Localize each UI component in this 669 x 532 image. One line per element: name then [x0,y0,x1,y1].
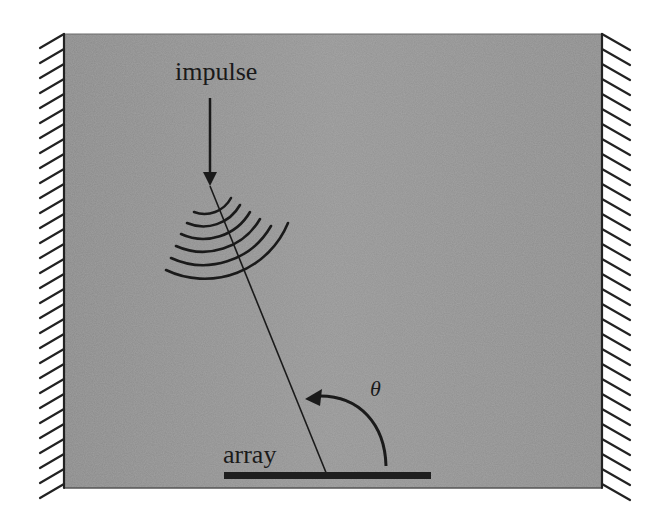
left-wall-hatch [40,34,64,498]
right-wall-hatch [602,34,630,500]
angle-label: θ [370,376,381,401]
medium-region [64,34,602,488]
diagram: impulse θ array [0,0,669,532]
sensor-array-bar [224,472,431,479]
array-label: array [223,440,276,469]
impulse-label: impulse [175,57,257,86]
